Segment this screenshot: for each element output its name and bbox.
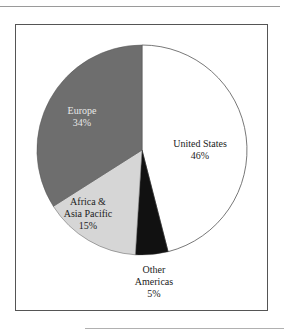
label-other-name-2: Americas	[135, 276, 173, 288]
label-us-name: United States	[173, 138, 227, 150]
label-other-americas: Other Americas 5%	[135, 264, 173, 300]
label-africa-asia-pacific: Africa & Asia Pacific 15%	[64, 196, 113, 232]
label-africa-name-1: Africa &	[64, 196, 113, 208]
label-other-value: 5%	[135, 288, 173, 300]
label-united-states: United States 46%	[173, 138, 227, 162]
label-europe-name: Europe	[68, 105, 97, 117]
label-other-name-1: Other	[135, 264, 173, 276]
label-africa-value: 15%	[64, 220, 113, 232]
label-europe-value: 34%	[68, 117, 97, 129]
label-africa-name-2: Asia Pacific	[64, 208, 113, 220]
bottom-rule	[85, 328, 284, 329]
label-europe: Europe 34%	[68, 105, 97, 129]
label-us-value: 46%	[173, 150, 227, 162]
